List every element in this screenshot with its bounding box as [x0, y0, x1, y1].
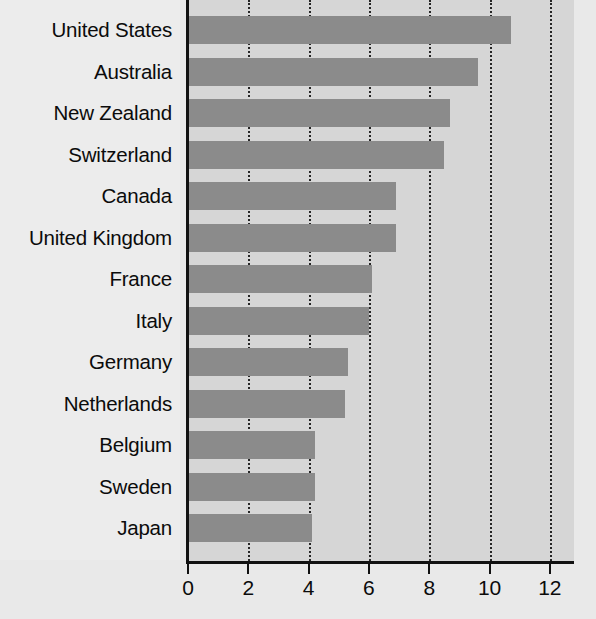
bar — [188, 99, 450, 127]
x-axis-tick-label: 6 — [347, 576, 391, 600]
y-axis-label: United Kingdom — [29, 224, 172, 252]
y-axis-label: Japan — [117, 514, 172, 542]
y-axis-label: Australia — [94, 58, 172, 86]
plot-area — [188, 0, 574, 561]
x-axis-tick — [368, 564, 370, 574]
y-axis-label: Germany — [89, 348, 172, 376]
x-axis-tick-label: 10 — [468, 576, 512, 600]
bar — [188, 514, 312, 542]
bar — [188, 265, 372, 293]
y-axis-label: United States — [52, 16, 172, 44]
x-axis-line — [186, 561, 574, 564]
bar — [188, 348, 348, 376]
bar — [188, 141, 444, 169]
bar — [188, 431, 315, 459]
y-axis-label: New Zealand — [53, 99, 172, 127]
y-axis-label: Switzerland — [68, 141, 172, 169]
bar — [188, 390, 345, 418]
y-axis-label: Belgium — [99, 431, 172, 459]
y-axis-label: Italy — [135, 307, 172, 335]
bar — [188, 473, 315, 501]
bar — [188, 224, 396, 252]
x-axis-tick — [428, 564, 430, 574]
bar — [188, 307, 369, 335]
y-axis-label: France — [109, 265, 172, 293]
x-axis-tick-label: 0 — [166, 576, 210, 600]
x-axis-tick — [489, 564, 491, 574]
x-axis-tick — [308, 564, 310, 574]
x-axis-tick-label: 8 — [407, 576, 451, 600]
bar-chart: United StatesAustraliaNew ZealandSwitzer… — [0, 0, 596, 619]
x-axis-tick — [187, 564, 189, 574]
y-axis-label: Sweden — [99, 473, 172, 501]
bar — [188, 58, 478, 86]
x-axis-tick-label: 2 — [226, 576, 270, 600]
gridline-12 — [550, 0, 552, 561]
x-axis-tick-label: 4 — [287, 576, 331, 600]
y-axis-label: Netherlands — [64, 390, 172, 418]
gridline-10 — [490, 0, 492, 561]
bar — [188, 182, 396, 210]
y-axis-label: Canada — [101, 182, 172, 210]
x-axis-tick-label: 12 — [528, 576, 572, 600]
x-axis-tick — [247, 564, 249, 574]
x-axis-tick — [549, 564, 551, 574]
y-axis-line — [186, 0, 189, 563]
bar — [188, 16, 511, 44]
y-axis-category-labels: United StatesAustraliaNew ZealandSwitzer… — [0, 0, 180, 560]
